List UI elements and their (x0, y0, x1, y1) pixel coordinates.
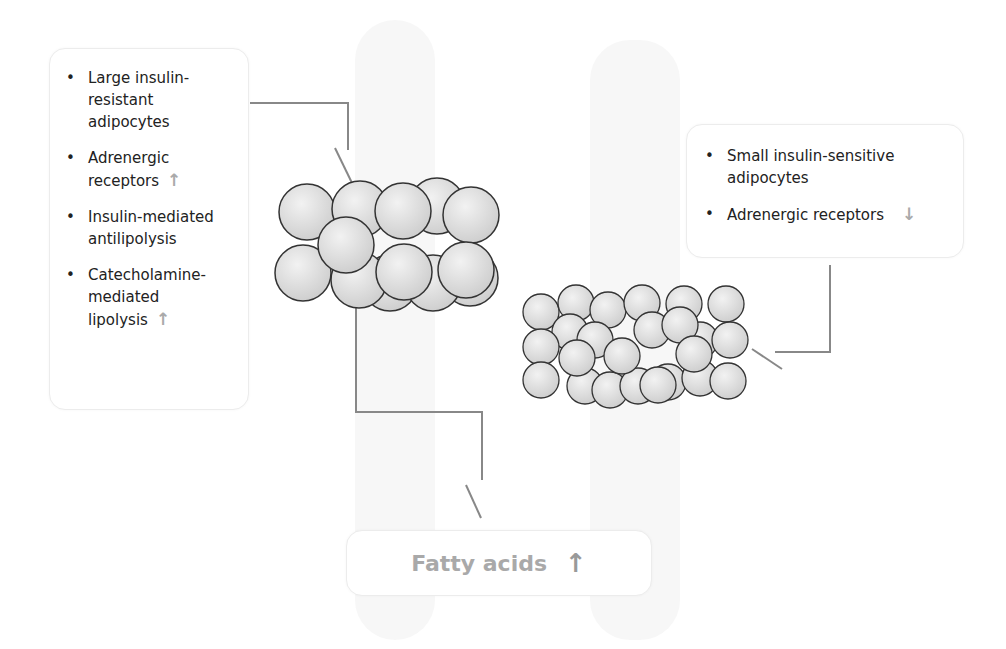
list-item: Adrenergic receptors↑ (64, 147, 198, 192)
small-adipocyte-info-box: Small insulin-sensitive adipocytes Adren… (686, 124, 964, 258)
arrow-down-icon: ↓ (902, 204, 916, 224)
large-adipocyte-info-box: Large insulin-resistant adipocytes Adren… (49, 48, 249, 410)
arrow-up-icon: ↑ (167, 170, 181, 190)
list-item: Catecholamine-mediated lipolysis↑ (64, 264, 198, 331)
fatty-acids-box: Fatty acids ↑ (346, 530, 652, 596)
large-adipocyte-cluster (275, 178, 499, 311)
list-item: Small insulin-sensitive adipocytes (703, 145, 927, 189)
list-item: Adrenergic receptors↓ (703, 203, 951, 226)
list-item: Insulin-mediated antilipolysis (64, 206, 236, 250)
arrow-up-icon: ↑ (156, 309, 170, 329)
arrow-up-icon: ↑ (565, 548, 587, 578)
small-adipocyte-cluster (523, 285, 748, 408)
list-item: Large insulin-resistant adipocytes (64, 67, 198, 133)
fatty-acids-label: Fatty acids (411, 551, 547, 576)
